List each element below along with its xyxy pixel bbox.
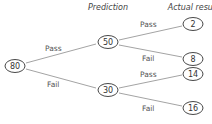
node-fail-fail-value: 16 xyxy=(188,104,198,113)
actual-result-header: Actual result xyxy=(167,3,212,12)
edge-root-fail xyxy=(26,69,96,88)
node-fail-pass: 14 xyxy=(183,68,203,81)
node-pass: 50 xyxy=(98,36,118,49)
node-pass-fail-value: 8 xyxy=(190,55,195,64)
edge-label-fail-pass: Pass xyxy=(140,70,157,79)
node-root: 80 xyxy=(5,60,25,73)
edge-label-fail-fail: Fail xyxy=(142,104,154,113)
node-fail-value: 30 xyxy=(103,86,113,95)
edge-label-pass-pass: Pass xyxy=(140,20,157,29)
edge-label-root-fail: Fail xyxy=(47,80,59,89)
node-fail-fail: 16 xyxy=(183,102,203,115)
edge-label-pass-fail: Fail xyxy=(142,54,154,63)
node-pass-pass-value: 2 xyxy=(190,20,195,29)
node-pass-pass: 2 xyxy=(183,18,203,31)
node-root-value: 80 xyxy=(10,62,20,71)
edge-label-root-pass: Pass xyxy=(45,44,62,53)
node-fail-pass-value: 14 xyxy=(188,70,198,79)
prediction-header: Prediction xyxy=(88,3,128,12)
node-pass-value: 50 xyxy=(103,38,113,47)
decision-tree-diagram: Prediction Actual result Pass Fail Pass … xyxy=(0,0,212,124)
node-pass-fail: 8 xyxy=(183,53,203,66)
node-fail: 30 xyxy=(98,84,118,97)
